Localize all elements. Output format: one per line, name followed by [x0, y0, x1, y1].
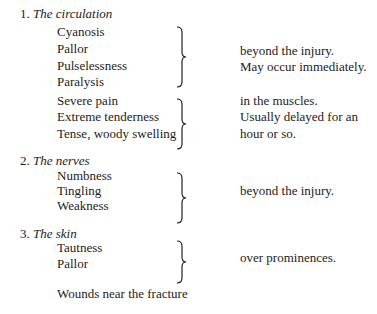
- list-item: Cyanosis: [57, 24, 105, 40]
- section-title: The skin: [33, 226, 77, 241]
- note-text: in the muscles.: [240, 93, 318, 109]
- list-item: Weakness: [57, 198, 109, 214]
- note-text: beyond the injury.: [240, 43, 334, 59]
- note-text: hour or so.: [240, 126, 296, 142]
- list-item: Wounds near the fracture: [57, 286, 188, 302]
- list-item: Tingling: [57, 183, 101, 199]
- list-item: Numbness: [57, 168, 112, 184]
- list-item: Severe pain: [57, 93, 118, 109]
- section-title: The nerves: [33, 153, 90, 168]
- right-brace-icon: [174, 172, 188, 224]
- list-item: Pallor: [57, 41, 88, 57]
- list-item: Pallor: [57, 256, 88, 272]
- note-text: May occur immediately.: [240, 59, 367, 75]
- note-text: beyond the injury.: [240, 183, 334, 199]
- note-text: over prominences.: [240, 250, 336, 266]
- right-brace-icon: [174, 26, 188, 88]
- section-number: 3.: [20, 226, 30, 241]
- section-number: 2.: [20, 153, 30, 168]
- right-brace-icon: [174, 240, 188, 284]
- list-item: Extreme tenderness: [57, 109, 159, 125]
- section-number: 1.: [20, 6, 30, 21]
- list-item: Pulselessness: [57, 58, 127, 74]
- note-text: Usually delayed for an: [240, 109, 358, 125]
- section-2-heading: 2. The nerves: [20, 153, 90, 169]
- section-title: The circulation: [33, 6, 112, 21]
- list-item: Tautness: [57, 240, 102, 256]
- section-1-heading: 1. The circulation: [20, 6, 112, 22]
- right-brace-icon: [174, 98, 188, 150]
- list-item: Tense, woody swelling: [57, 126, 176, 142]
- list-item: Paralysis: [57, 74, 104, 90]
